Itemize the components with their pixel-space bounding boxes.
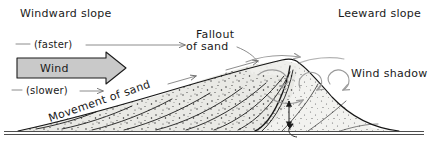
movement-arrow-right-icon (168, 76, 196, 84)
wind-block-arrow-icon: Wind (17, 52, 126, 84)
label-faster: (faster) (34, 39, 72, 50)
label-fallout-line2: of sand (186, 40, 229, 53)
label-windward-slope: Windward slope (20, 7, 112, 20)
dune-diagram-svg: Windward slope Leeward slope Fallout of … (0, 0, 429, 147)
fallout-pointer-icon (237, 47, 258, 62)
swirl-arrow-icon-6 (299, 58, 344, 63)
swirl-arrow-icon-4 (328, 70, 349, 90)
label-wind: Wind (40, 62, 69, 75)
label-slower: (slower) (26, 85, 68, 96)
dune-diagram-figure: Windward slope Leeward slope Fallout of … (0, 0, 429, 147)
label-leeward-slope: Leeward slope (338, 7, 421, 20)
faster-flow-row: (faster) (16, 39, 185, 50)
slower-flow-row: (slower) (12, 85, 103, 96)
label-wind-shadow: Wind shadow (351, 67, 428, 80)
